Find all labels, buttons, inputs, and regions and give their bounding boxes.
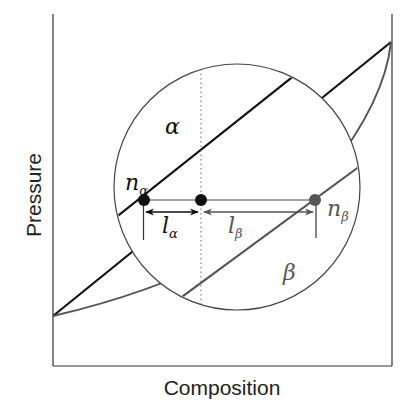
point-overall: [195, 194, 207, 206]
magnifier-circle: [114, 64, 360, 310]
alpha-region-label: α: [165, 114, 180, 139]
beta-region-label: β: [282, 260, 296, 285]
beta-line-magnified: [160, 155, 375, 313]
x-axis-label: Composition: [164, 376, 281, 399]
n-alpha-label: nα: [125, 170, 148, 198]
alpha-boundary-line: [53, 42, 391, 316]
l-beta-label: lβ: [228, 213, 243, 241]
point-n-beta: [309, 194, 321, 206]
phase-diagram: α β nα nβ lα lβ Composition Pressure: [0, 0, 419, 417]
plot-frame: [53, 14, 392, 366]
l-alpha-label: lα: [162, 213, 178, 241]
n-beta-label: nβ: [327, 196, 349, 224]
y-axis-label: Pressure: [22, 153, 45, 237]
phase-boundaries-outside: [53, 42, 391, 316]
